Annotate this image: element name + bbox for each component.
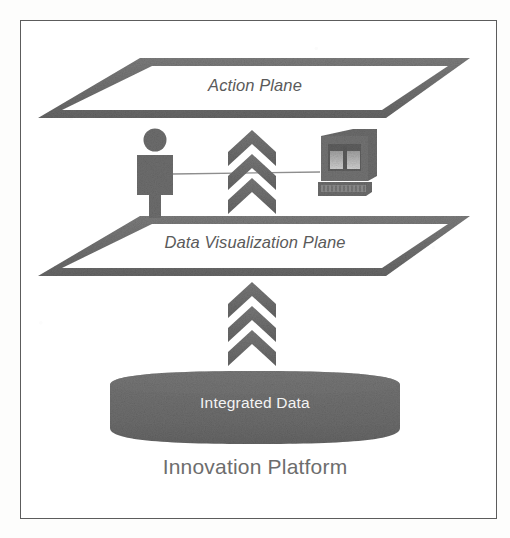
flow-integrated-to-dataviz-icon[interactable] — [228, 282, 276, 366]
person-icon[interactable] — [137, 129, 173, 219]
flow-data-to-action-icon[interactable] — [228, 130, 276, 214]
monitor-icon[interactable] — [318, 129, 377, 196]
data-visualization-plane-label: Data Visualization Plane — [0, 233, 510, 252]
figure-caption: Innovation Platform — [0, 455, 510, 479]
action-plane-label: Action Plane — [0, 76, 510, 95]
integrated-data-label: Integrated Data — [0, 394, 510, 412]
figure-root: Action Plane Data Visualization Plane In… — [0, 0, 510, 538]
